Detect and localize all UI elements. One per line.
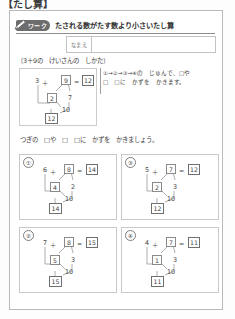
- example-split-right: 7: [66, 95, 74, 101]
- worksheet-page: 【たし算】 ワーク たされる数がたす数より小さいたし算 なまえ 〔3＋9の けい…: [0, 0, 235, 319]
- problem-1-answer: 14: [86, 164, 98, 175]
- problem-3-split-left: 2: [152, 182, 162, 192]
- procedure-note-line-1: ①→②→③→④の じゅんで、□や: [103, 69, 215, 78]
- example-diagram-box: 3 ＋ 9 = 12 2 7 10 12: [19, 68, 97, 126]
- problem-card-1: ① 6 ＋ 8 = 14 4 2 10 14: [19, 154, 117, 220]
- page-title: たされる数がたす数より小さいたし算: [55, 20, 174, 31]
- example-diagram: 3 ＋ 9 = 12 2 7 10 12: [20, 69, 96, 125]
- problem-4-split-right: 3: [171, 257, 179, 263]
- problem-4-total: 11: [151, 276, 164, 287]
- problem-1-split-left: 4: [50, 182, 60, 192]
- problem-diagram-1: 6 ＋ 8 = 14 4 2 10 14: [20, 155, 116, 219]
- problem-1-total: 14: [49, 203, 62, 214]
- problem-2-right-addend: 8: [64, 237, 74, 247]
- problem-diagram-3: 5 ＋ 7 = 12 2 3 10 12: [122, 155, 218, 219]
- problem-4-answer: 11: [188, 237, 200, 248]
- problem-1-equals: =: [77, 167, 82, 174]
- problem-card-2: ② 7 ＋ 8 = 15 5 3 10 15: [19, 227, 117, 293]
- problem-3-total: 12: [151, 203, 164, 214]
- problem-card-3: ③ 5 ＋ 7 = 12 2 3 10 12: [121, 154, 219, 220]
- problem-3-left-addend: 5: [143, 167, 151, 173]
- header-rule: [16, 33, 215, 34]
- name-field-label: なまえ: [67, 37, 92, 52]
- problem-4-left-addend: 4: [143, 240, 151, 246]
- problem-2-equals: =: [77, 240, 82, 247]
- exercise-instruction: つぎの □や □ □に かずを かきましょう。: [20, 135, 158, 146]
- example-answer: 12: [82, 75, 94, 86]
- problem-3-equals: =: [179, 167, 184, 174]
- problem-1-split-right: 2: [69, 184, 77, 190]
- problem-2-answer: 15: [86, 237, 98, 248]
- problem-2-ten: 10: [64, 269, 74, 275]
- name-field-input[interactable]: [92, 37, 215, 52]
- problem-2-operator: ＋: [50, 240, 56, 249]
- problem-1-right-addend: 8: [64, 164, 74, 174]
- example-total: 12: [45, 113, 58, 124]
- problem-1-ten: 10: [64, 196, 74, 202]
- problem-diagram-2: 7 ＋ 8 = 15 5 3 10 15: [20, 228, 116, 292]
- worksheet-header: ワーク たされる数がたす数より小さいたし算: [16, 19, 216, 34]
- pencil-icon: [14, 19, 28, 31]
- problem-1-operator: ＋: [50, 167, 56, 176]
- example-left-addend: 3: [33, 78, 41, 84]
- example-equals: =: [74, 78, 79, 85]
- problem-4-split-left: 1: [152, 255, 162, 265]
- work-tag-label: ワーク: [28, 21, 47, 30]
- problem-3-answer: 12: [188, 164, 200, 175]
- problem-4-right-addend: 7: [166, 237, 176, 247]
- example-ten: 10: [61, 107, 71, 113]
- problem-2-left-addend: 7: [41, 240, 49, 246]
- problem-card-4: ④ 4 ＋ 7 = 11 1 3 10 11: [121, 227, 219, 293]
- problem-3-operator: ＋: [152, 167, 158, 176]
- problem-4-ten: 10: [166, 269, 176, 275]
- example-split-left: 2: [47, 93, 57, 103]
- problem-2-split-right: 3: [69, 257, 77, 263]
- procedure-note: ①→②→③→④の じゅんで、□や □ □に かずを かきます。: [103, 69, 215, 87]
- problem-3-split-right: 3: [171, 184, 179, 190]
- example-instruction: 〔3＋9の けいさんの しかた〕: [17, 56, 109, 65]
- problem-2-split-left: 5: [50, 255, 60, 265]
- problem-3-ten: 10: [166, 196, 176, 202]
- problem-2-total: 15: [49, 276, 62, 287]
- example-right-addend: 9: [61, 75, 71, 85]
- problem-4-operator: ＋: [152, 240, 158, 249]
- problem-4-equals: =: [179, 240, 184, 247]
- problem-diagram-4: 4 ＋ 7 = 11 1 3 10 11: [122, 228, 218, 292]
- problem-3-right-addend: 7: [166, 164, 176, 174]
- procedure-note-line-2: □ □に かずを かきます。: [103, 78, 215, 87]
- name-field[interactable]: なまえ: [66, 36, 216, 53]
- problem-1-left-addend: 6: [41, 167, 49, 173]
- example-operator: ＋: [42, 78, 48, 87]
- note-divider: [100, 68, 101, 94]
